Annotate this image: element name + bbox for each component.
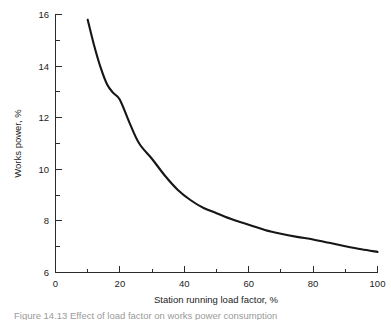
data-series-line xyxy=(88,20,378,252)
y-tick-label-16: 16 xyxy=(38,9,49,20)
figure-container: 16 14 12 10 8 6 0 20 40 60 80 100 Works … xyxy=(0,0,391,320)
y-tick-label-6: 6 xyxy=(44,267,49,278)
y-axis-title: Works power, % xyxy=(12,109,23,178)
x-tick-label-60: 60 xyxy=(243,278,254,289)
x-tick-label-80: 80 xyxy=(308,278,319,289)
y-tick-label-8: 8 xyxy=(44,215,49,226)
chart-canvas: 16 14 12 10 8 6 0 20 40 60 80 100 Works … xyxy=(0,0,391,320)
figure-caption: Figure 14.13 Effect of load factor on wo… xyxy=(14,310,277,320)
y-axis-minor-ticks xyxy=(56,40,61,246)
y-tick-label-10: 10 xyxy=(38,164,49,175)
y-tick-label-12: 12 xyxy=(38,112,49,123)
x-tick-label-100: 100 xyxy=(370,278,386,289)
x-tick-label-0: 0 xyxy=(53,278,58,289)
y-tick-label-14: 14 xyxy=(38,61,49,72)
x-tick-label-40: 40 xyxy=(179,278,190,289)
x-axis-minor-ticks xyxy=(88,269,346,273)
x-tick-label-20: 20 xyxy=(115,278,126,289)
x-axis-title: Station running load factor, % xyxy=(154,294,279,305)
